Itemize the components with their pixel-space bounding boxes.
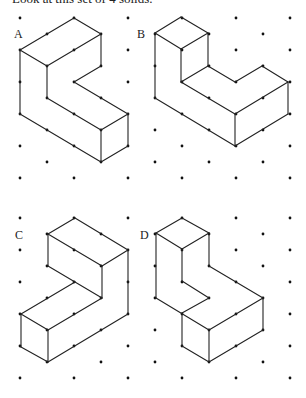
grid-dot [127, 49, 130, 52]
solid-label: C [15, 228, 23, 242]
grid-dot [19, 281, 22, 284]
grid-dot [289, 17, 292, 20]
grid-dot [19, 17, 22, 20]
edge [101, 146, 128, 162]
solid-label: D [140, 228, 149, 242]
solid-a: A [14, 18, 128, 162]
grid-dot [46, 161, 49, 164]
edge [155, 33, 181, 49]
edge [235, 66, 262, 82]
edge [75, 218, 128, 250]
grid-dot [289, 145, 292, 148]
edge [74, 82, 128, 114]
solid-label: A [14, 27, 23, 41]
edge [21, 347, 48, 362]
grid-dot [73, 377, 76, 380]
edge [156, 218, 182, 233]
edge [74, 66, 101, 82]
grid-dot [19, 249, 22, 252]
edge [262, 66, 288, 82]
grid-dot [127, 217, 130, 220]
solid-c: C [15, 218, 128, 362]
grid-dot [289, 249, 292, 252]
grid-dot [127, 177, 130, 180]
edge [20, 50, 47, 66]
edge [181, 82, 235, 114]
grid-dot [235, 17, 238, 20]
grid-dot [289, 217, 292, 220]
grid-dot [154, 129, 157, 132]
edge [208, 66, 235, 82]
grid-dot [181, 377, 184, 380]
solids-group: ABCD [14, 17, 288, 362]
grid-dot [19, 217, 22, 220]
grid-dot [235, 177, 238, 180]
isometric-dot-paper: ABCD [0, 0, 306, 398]
edge [182, 298, 209, 313]
edge [48, 218, 75, 234]
grid-dot [127, 345, 130, 348]
grid-dot [208, 161, 211, 164]
edge [48, 298, 102, 330]
edge [74, 18, 101, 34]
edge [75, 282, 102, 298]
grid-dot [154, 329, 157, 332]
grid-dot [289, 177, 292, 180]
grid-dot [127, 81, 130, 84]
grid-dot [181, 177, 184, 180]
edge [209, 330, 263, 362]
grid-dot [19, 377, 22, 380]
grid-dot [235, 377, 238, 380]
edge [155, 98, 235, 146]
solid-label: B [137, 27, 145, 41]
grid-dot [262, 161, 265, 164]
edge [47, 34, 101, 66]
edge [48, 314, 128, 362]
edge [209, 266, 263, 298]
edge [182, 346, 209, 362]
edge [182, 233, 209, 249]
grid-dot [262, 33, 265, 36]
grid-dot [289, 113, 292, 116]
solid-b: B [137, 17, 288, 146]
grid-dot [235, 249, 238, 252]
solid-d: D [140, 218, 263, 362]
grid-dot [289, 377, 292, 380]
grid-dot [154, 361, 157, 364]
edge [101, 114, 128, 130]
edge [235, 114, 288, 146]
grid-dot [181, 145, 184, 148]
grid-dot [154, 161, 157, 164]
grid-dot [19, 177, 22, 180]
grid-dot [19, 145, 22, 148]
edge [20, 114, 101, 162]
grid-dot [73, 177, 76, 180]
grid-dot [235, 217, 238, 220]
edge [48, 234, 102, 266]
edge [20, 18, 74, 50]
edge [21, 314, 48, 330]
grid-dot [262, 233, 265, 236]
grid-dot [100, 361, 103, 364]
grid-dot [127, 377, 130, 380]
edge [182, 281, 209, 298]
edge [181, 17, 208, 33]
grid-dot [262, 361, 265, 364]
edge [182, 218, 209, 233]
grid-dot [289, 81, 292, 84]
edge [102, 250, 128, 266]
grid-dot [289, 313, 292, 316]
edge [155, 17, 181, 33]
edge [181, 66, 208, 82]
edge [235, 82, 288, 114]
edge [48, 266, 75, 282]
grid-dot [289, 281, 292, 284]
edge [209, 298, 263, 330]
edge [47, 98, 101, 130]
edge [156, 233, 182, 249]
grid-dot [127, 17, 130, 20]
grid-dot [289, 49, 292, 52]
grid-dot [289, 345, 292, 348]
edge [181, 33, 208, 49]
edge [21, 282, 75, 314]
